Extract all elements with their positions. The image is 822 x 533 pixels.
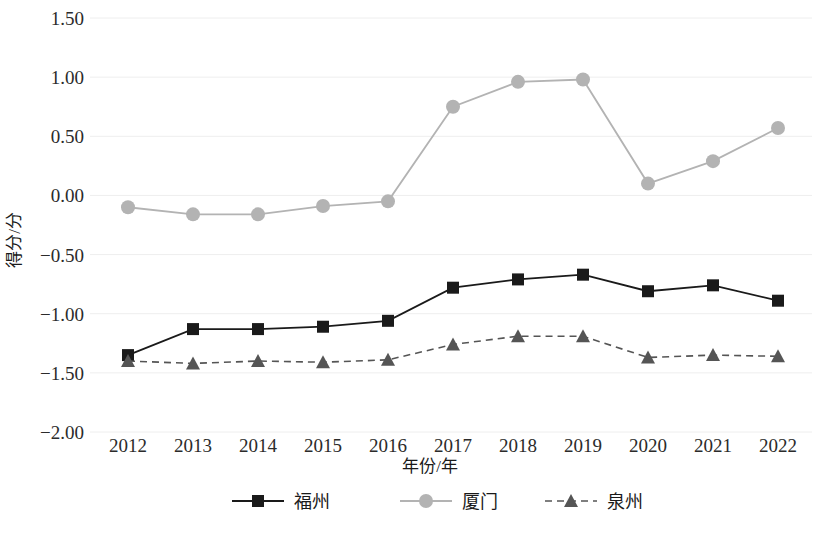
data-point [512,273,524,285]
data-point [316,355,330,368]
data-point [641,177,655,191]
series-厦门 [121,73,785,222]
x-tick-label: 2015 [304,435,342,456]
data-point [771,121,785,135]
x-tick-label: 2016 [369,435,407,456]
data-point [382,315,394,327]
y-tick-label: 0.50 [51,126,84,147]
x-tick-label: 2022 [759,435,797,456]
data-point [381,194,395,208]
data-point [707,279,719,291]
data-point [251,207,265,221]
y-axis-tick-labels: 1.501.000.500.00−0.50−1.00−1.50−2.00 [40,8,84,443]
line-chart: 1.501.000.500.00−0.50−1.00−1.50−2.00 201… [0,0,822,533]
x-axis-tick-labels: 2012201320142015201620172018201920202021… [109,435,797,456]
y-tick-label: −0.50 [40,245,84,266]
series-泉州 [121,329,785,369]
legend-item-福州[interactable]: 福州 [232,492,330,512]
data-point [446,100,460,114]
data-point [186,207,200,221]
y-tick-label: 1.00 [51,67,84,88]
data-point [446,337,460,350]
x-tick-label: 2018 [499,435,537,456]
chart-legend: 福州厦门泉州 [232,492,643,512]
x-tick-label: 2017 [434,435,472,456]
legend-item-厦门[interactable]: 厦门 [400,492,498,512]
x-tick-label: 2013 [174,435,212,456]
legend-marker [419,494,433,508]
series-layer [121,73,785,370]
data-point [316,199,330,213]
data-point [706,348,720,361]
data-point [576,329,590,342]
x-tick-label: 2012 [109,435,147,456]
gridlines [90,18,812,432]
data-point [317,321,329,333]
chart-canvas: 1.501.000.500.00−0.50−1.00−1.50−2.00 201… [0,0,822,533]
x-axis-title: 年份/年 [402,457,458,476]
legend-label: 福州 [294,492,330,512]
data-point [642,285,654,297]
y-axis-title: 得分/分 [5,212,24,268]
x-tick-label: 2020 [629,435,667,456]
x-tick-label: 2019 [564,435,602,456]
data-point [576,73,590,87]
legend-marker [252,495,264,507]
data-point [447,282,459,294]
legend-label: 泉州 [607,492,643,512]
legend-item-泉州[interactable]: 泉州 [545,492,643,512]
data-point [121,200,135,214]
y-tick-label: −1.00 [40,304,84,325]
data-point [252,323,264,335]
y-tick-label: 1.50 [51,8,84,29]
x-tick-label: 2014 [239,435,278,456]
y-tick-label: −1.50 [40,363,84,384]
x-tick-label: 2021 [694,435,732,456]
data-point [511,75,525,89]
legend-label: 厦门 [462,492,498,512]
data-point [706,154,720,168]
y-tick-label: 0.00 [51,185,84,206]
data-point [187,323,199,335]
data-point [577,269,589,281]
y-tick-label: −2.00 [40,422,84,443]
data-point [772,295,784,307]
